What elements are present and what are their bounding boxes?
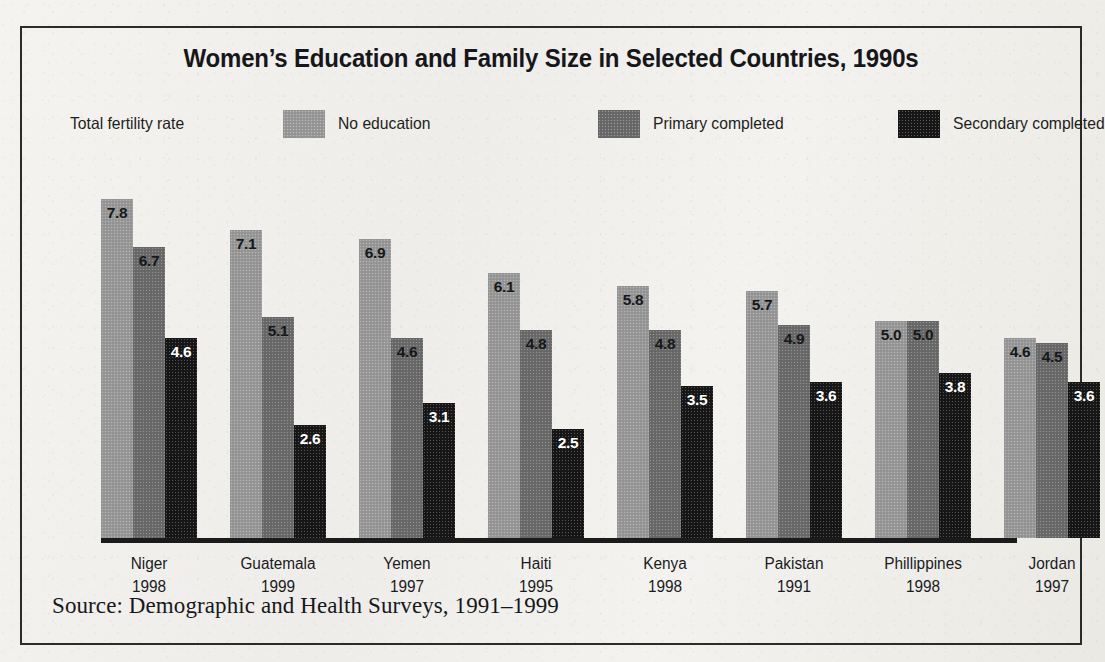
bar-halftone: [746, 291, 778, 538]
bar-halftone: [488, 273, 520, 538]
x-label-country: Jordan: [985, 552, 1105, 575]
bar-value-label: 4.8: [520, 335, 552, 353]
chart-frame: Women’s Education and Family Size in Sel…: [20, 26, 1082, 645]
bar-value-label: 4.6: [165, 343, 197, 361]
x-axis-label-haiti: Haiti1995: [469, 552, 603, 598]
bar-kenya-secondary-completed: 3.5: [681, 386, 713, 538]
bar-value-label: 3.5: [681, 391, 713, 409]
x-axis-line: [101, 538, 1017, 543]
x-label-country: Niger: [82, 552, 216, 575]
source-note: Source: Demographic and Health Surveys, …: [52, 593, 559, 619]
bar-jordan-primary-completed: 4.5: [1036, 343, 1068, 538]
bar-value-label: 7.1: [230, 235, 262, 253]
x-label-country: Pakistan: [727, 552, 861, 575]
bar-haiti-primary-completed: 4.8: [520, 330, 552, 538]
bar-jordan-secondary-completed: 3.6: [1068, 382, 1100, 538]
bar-value-label: 3.1: [423, 408, 455, 426]
bar-value-label: 6.7: [133, 252, 165, 270]
bar-haiti-no-education: 6.1: [488, 273, 520, 538]
bar-halftone: [1004, 338, 1036, 538]
x-label-year: 1998: [598, 575, 732, 598]
bar-halftone: [939, 373, 971, 538]
x-axis-label-yemen: Yemen1997: [340, 552, 474, 598]
bar-pakistan-secondary-completed: 3.6: [810, 382, 842, 538]
plot-area: 7.86.74.6Niger19987.15.12.6Guatemala1999…: [22, 28, 1084, 647]
x-label-year: 1997: [985, 575, 1105, 598]
bar-halftone: [520, 330, 552, 538]
bar-kenya-no-education: 5.8: [617, 286, 649, 538]
bar-value-label: 4.6: [391, 343, 423, 361]
x-axis-label-jordan: Jordan1997: [985, 552, 1105, 598]
bar-value-label: 2.6: [294, 430, 326, 448]
x-axis-label-kenya: Kenya1998: [598, 552, 732, 598]
bar-halftone: [262, 317, 294, 538]
bar-halftone: [165, 338, 197, 538]
bar-jordan-no-education: 4.6: [1004, 338, 1036, 538]
bar-value-label: 4.9: [778, 330, 810, 348]
bar-halftone: [907, 321, 939, 538]
x-label-country: Yemen: [340, 552, 474, 575]
bar-halftone: [101, 199, 133, 538]
bar-value-label: 3.8: [939, 378, 971, 396]
x-axis-label-phillippines: Phillippines1998: [856, 552, 990, 598]
bar-niger-primary-completed: 6.7: [133, 247, 165, 538]
x-label-country: Guatemala: [211, 552, 345, 575]
bar-phillippines-secondary-completed: 3.8: [939, 373, 971, 538]
bar-yemen-primary-completed: 4.6: [391, 338, 423, 538]
x-axis-label-guatemala: Guatemala1999: [211, 552, 345, 598]
x-axis-label-pakistan: Pakistan1991: [727, 552, 861, 598]
x-label-country: Haiti: [469, 552, 603, 575]
bar-value-label: 3.6: [810, 387, 842, 405]
bar-value-label: 4.8: [649, 335, 681, 353]
bar-halftone: [1036, 343, 1068, 538]
bar-value-label: 5.7: [746, 296, 778, 314]
bar-halftone: [1068, 382, 1100, 538]
bar-value-label: 5.0: [907, 326, 939, 344]
bar-halftone: [649, 330, 681, 538]
bar-value-label: 4.5: [1036, 348, 1068, 366]
bar-halftone: [778, 325, 810, 538]
bar-pakistan-no-education: 5.7: [746, 291, 778, 538]
bar-value-label: 5.0: [875, 326, 907, 344]
bar-value-label: 6.9: [359, 244, 391, 262]
bar-haiti-secondary-completed: 2.5: [552, 429, 584, 538]
bar-value-label: 4.6: [1004, 343, 1036, 361]
bar-value-label: 3.6: [1068, 387, 1100, 405]
bar-phillippines-no-education: 5.0: [875, 321, 907, 538]
bar-guatemala-secondary-completed: 2.6: [294, 425, 326, 538]
bar-yemen-no-education: 6.9: [359, 239, 391, 538]
bar-kenya-primary-completed: 4.8: [649, 330, 681, 538]
bar-halftone: [875, 321, 907, 538]
bar-phillippines-primary-completed: 5.0: [907, 321, 939, 538]
bar-halftone: [230, 230, 262, 538]
bar-value-label: 2.5: [552, 434, 584, 452]
bar-value-label: 5.1: [262, 322, 294, 340]
bar-halftone: [359, 239, 391, 538]
bar-guatemala-primary-completed: 5.1: [262, 317, 294, 538]
bar-halftone: [617, 286, 649, 538]
x-label-year: 1991: [727, 575, 861, 598]
bar-yemen-secondary-completed: 3.1: [423, 403, 455, 538]
bar-value-label: 6.1: [488, 278, 520, 296]
x-label-country: Kenya: [598, 552, 732, 575]
x-label-country: Phillippines: [856, 552, 990, 575]
bar-value-label: 5.8: [617, 291, 649, 309]
bar-pakistan-primary-completed: 4.9: [778, 325, 810, 538]
x-label-year: 1998: [856, 575, 990, 598]
bar-niger-secondary-completed: 4.6: [165, 338, 197, 538]
bar-halftone: [810, 382, 842, 538]
bar-halftone: [391, 338, 423, 538]
bar-value-label: 7.8: [101, 204, 133, 222]
page-top-fragment: [0, 0, 1105, 20]
x-axis-label-niger: Niger1998: [82, 552, 216, 598]
bar-guatemala-no-education: 7.1: [230, 230, 262, 538]
bar-halftone: [133, 247, 165, 538]
bar-niger-no-education: 7.8: [101, 199, 133, 538]
